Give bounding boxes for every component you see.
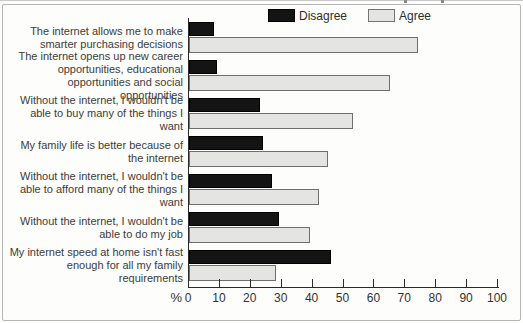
x-axis-line — [188, 287, 499, 288]
x-axis-tick — [373, 279, 374, 287]
agree-bar — [189, 151, 328, 167]
x-axis-tick — [312, 279, 313, 287]
category-label: Without the internet, I wouldn't be able… — [4, 168, 183, 211]
x-axis-tick-label: 100 — [482, 291, 512, 305]
legend-label-disagree: Disagree — [299, 9, 347, 23]
agree-bar — [189, 227, 310, 243]
chart-row: The internet opens up new career opportu… — [0, 60, 523, 91]
chart-row: Without the internet, I wouldn't be able… — [0, 98, 523, 129]
agree-bar — [189, 75, 390, 91]
x-axis-tick — [188, 279, 189, 287]
category-label: Without the internet, I wouldn't be able… — [4, 92, 183, 135]
x-axis-tick-label: 20 — [235, 291, 265, 305]
x-axis-tick — [219, 279, 220, 287]
chart-row: The internet allows me to make smarter p… — [0, 22, 523, 53]
x-axis-tick — [466, 279, 467, 287]
x-axis-tick — [250, 279, 251, 287]
chart-row: Without the internet, I wouldn't be able… — [0, 174, 523, 205]
x-axis-tick-label: 40 — [297, 291, 327, 305]
cropped-title-descender — [441, 0, 444, 3]
x-axis-tick — [343, 279, 344, 287]
legend-label-agree: Agree — [399, 9, 431, 23]
category-label: Without the internet, I wouldn't be able… — [4, 206, 183, 249]
x-axis-tick-label: 90 — [451, 291, 481, 305]
category-label: My internet speed at home isn't fast eno… — [4, 244, 183, 287]
x-axis-tick — [435, 279, 436, 287]
agree-bar — [189, 37, 418, 53]
survey-bar-chart: Disagree Agree The internet allows me to… — [0, 0, 523, 323]
category-label: The internet opens up new career opportu… — [4, 54, 183, 97]
y-axis-line — [188, 18, 189, 287]
chart-row: My family life is better because of the … — [0, 136, 523, 167]
agree-bar — [189, 265, 276, 281]
legend-swatch-agree — [368, 9, 395, 22]
x-axis-tick-label: 60 — [358, 291, 388, 305]
x-axis-tick-label: 30 — [266, 291, 296, 305]
x-axis-tick — [281, 279, 282, 287]
percent-axis-label: % — [152, 290, 182, 305]
agree-bar — [189, 189, 319, 205]
x-axis-tick-label: 80 — [420, 291, 450, 305]
disagree-bar — [189, 174, 272, 188]
disagree-bar — [189, 98, 260, 112]
x-axis-tick — [497, 279, 498, 287]
cropped-title-descender — [404, 0, 407, 3]
legend-swatch-disagree — [268, 9, 295, 22]
disagree-bar — [189, 212, 279, 226]
disagree-bar — [189, 250, 331, 264]
chart-row: My internet speed at home isn't fast eno… — [0, 250, 523, 281]
disagree-bar — [189, 60, 217, 74]
x-axis-tick-label: 10 — [204, 291, 234, 305]
x-axis-tick — [404, 279, 405, 287]
x-axis-tick-label: 50 — [328, 291, 358, 305]
disagree-bar — [189, 136, 263, 150]
chart-row: Without the internet, I wouldn't be able… — [0, 212, 523, 243]
disagree-bar — [189, 22, 214, 36]
category-label: My family life is better because of the … — [4, 130, 183, 173]
x-axis-tick-label: 70 — [389, 291, 419, 305]
cropped-title-baseline — [0, 0, 523, 1]
agree-bar — [189, 113, 353, 129]
